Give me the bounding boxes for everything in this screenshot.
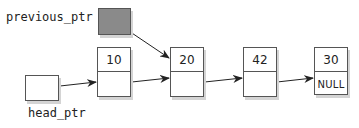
list-node-10: 10 bbox=[97, 47, 131, 97]
node-next-null: NULL bbox=[315, 72, 347, 96]
list-node-20: 20 bbox=[170, 47, 204, 97]
node-next bbox=[171, 72, 203, 96]
list-node-30: 30 NULL bbox=[314, 47, 348, 95]
head-ptr-box bbox=[25, 75, 59, 101]
head-ptr-label: head_ptr bbox=[28, 107, 86, 119]
node-next bbox=[244, 72, 276, 96]
previous-ptr-label: previous_ptr bbox=[6, 11, 93, 23]
node-value: 10 bbox=[98, 48, 130, 72]
node-value: 20 bbox=[171, 48, 203, 72]
node-next bbox=[98, 72, 130, 96]
list-node-42: 42 bbox=[243, 47, 277, 97]
previous-ptr-box bbox=[98, 8, 131, 35]
node-value: 42 bbox=[244, 48, 276, 72]
node-value: 30 bbox=[315, 48, 347, 72]
